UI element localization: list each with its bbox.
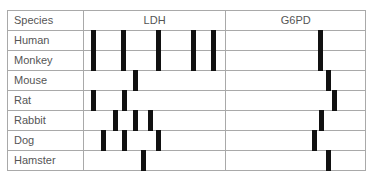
table-row: Human [8, 31, 366, 51]
g6pd-lane [226, 131, 366, 151]
g6pd-band [312, 130, 317, 151]
table-row: Hamster [8, 151, 366, 171]
header-g6pd: G6PD [226, 11, 366, 31]
ldh-band [211, 50, 216, 71]
species-label: Human [8, 31, 84, 51]
ldh-lane [84, 31, 227, 51]
ldh-lane [84, 151, 227, 171]
ldh-band [122, 130, 127, 151]
table-row: Monkey [8, 51, 366, 71]
species-isoenzyme-table: Species LDH G6PD HumanMonkeyMouseRatRabb… [7, 10, 366, 171]
ldh-band [122, 90, 127, 111]
species-label: Rabbit [8, 111, 84, 131]
ldh-lane [84, 51, 227, 71]
ldh-band [191, 30, 196, 51]
g6pd-lane [226, 71, 366, 91]
g6pd-lane [226, 151, 366, 171]
ldh-lane [84, 111, 227, 131]
ldh-band [156, 50, 161, 71]
species-label: Hamster [8, 151, 84, 171]
table-body: HumanMonkeyMouseRatRabbitDogHamster [8, 31, 366, 171]
ldh-band [91, 30, 96, 51]
header-ldh: LDH [84, 11, 227, 31]
g6pd-lane [226, 31, 366, 51]
table-row: Rabbit [8, 111, 366, 131]
g6pd-lane [226, 51, 366, 71]
ldh-band [133, 70, 138, 91]
ldh-band [121, 30, 126, 51]
g6pd-lane [226, 111, 366, 131]
ldh-band [191, 50, 196, 71]
ldh-band [148, 110, 153, 131]
header-species: Species [8, 11, 84, 31]
g6pd-band [319, 110, 324, 131]
g6pd-band [332, 90, 337, 111]
ldh-band [91, 90, 96, 111]
table-row: Mouse [8, 71, 366, 91]
species-label: Monkey [8, 51, 84, 71]
g6pd-band [318, 50, 323, 71]
g6pd-lane [226, 91, 366, 111]
table-row: Dog [8, 131, 366, 151]
ldh-band [141, 150, 146, 171]
g6pd-band [318, 30, 323, 51]
species-label: Dog [8, 131, 84, 151]
ldh-band [156, 130, 161, 151]
ldh-band [101, 130, 106, 151]
ldh-lane [84, 91, 227, 111]
ldh-lane [84, 71, 227, 91]
g6pd-band [326, 150, 331, 171]
ldh-band [156, 30, 161, 51]
ldh-band [211, 30, 216, 51]
ldh-band [113, 110, 118, 131]
ldh-lane [84, 131, 227, 151]
ldh-band [121, 50, 126, 71]
species-label: Rat [8, 91, 84, 111]
ldh-band [133, 110, 138, 131]
table-row: Rat [8, 91, 366, 111]
g6pd-band [326, 70, 331, 91]
ldh-band [91, 50, 96, 71]
header-row: Species LDH G6PD [8, 11, 366, 31]
species-label: Mouse [8, 71, 84, 91]
